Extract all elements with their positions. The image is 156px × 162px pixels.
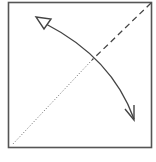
origami-diagram (0, 0, 156, 162)
